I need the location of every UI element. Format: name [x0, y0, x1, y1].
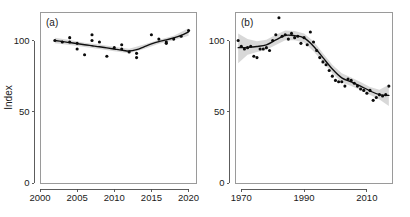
data-point [243, 48, 246, 51]
data-point [172, 38, 175, 41]
data-point [68, 40, 71, 43]
x-tick-label: 2015 [141, 192, 162, 203]
data-point [287, 38, 290, 41]
data-point [277, 16, 280, 19]
data-point [90, 39, 93, 42]
data-point [321, 60, 324, 63]
data-point [293, 36, 296, 39]
data-point [246, 46, 249, 49]
data-point [365, 92, 368, 95]
data-point [384, 93, 387, 96]
y-tick-label: 50 [214, 106, 225, 117]
data-point [318, 56, 321, 59]
data-point [120, 48, 123, 51]
x-tick-label: 2000 [29, 192, 50, 203]
data-point [359, 87, 362, 90]
data-point [90, 33, 93, 36]
data-point [259, 48, 262, 51]
data-point [76, 42, 79, 45]
panel-label: (b) [241, 17, 253, 28]
data-point [83, 53, 86, 56]
x-tick-label: 2010 [104, 192, 125, 203]
data-point [290, 32, 293, 35]
data-point [180, 35, 183, 38]
data-point [284, 33, 287, 36]
data-point [356, 85, 359, 88]
data-point [68, 36, 71, 39]
data-point [312, 40, 315, 43]
y-tick-label: 50 [19, 106, 30, 117]
data-point [353, 82, 356, 85]
data-point [157, 38, 160, 41]
data-point [325, 63, 328, 66]
data-point [135, 52, 138, 55]
data-point [299, 42, 302, 45]
data-point [350, 79, 353, 82]
data-point [303, 36, 306, 39]
data-point [76, 48, 79, 51]
data-point [346, 77, 349, 80]
data-point [165, 42, 168, 45]
data-point [120, 43, 123, 46]
data-point [252, 55, 255, 58]
data-point [296, 35, 299, 38]
x-tick-label: 2020 [178, 192, 199, 203]
data-point [128, 50, 131, 53]
data-point [315, 49, 318, 52]
x-tick-label: 2005 [67, 192, 88, 203]
data-point [135, 56, 138, 59]
data-point [375, 96, 378, 99]
x-tick-label: 2010 [356, 192, 377, 203]
data-point [381, 95, 384, 98]
data-point [271, 39, 274, 42]
data-point [113, 46, 116, 49]
y-tick-label: 0 [219, 177, 224, 188]
data-point [53, 39, 56, 42]
figure-container: 05010020002005201020152020(a)Index 05010… [0, 0, 410, 217]
x-tick-label: 1990 [294, 192, 315, 203]
y-tick-label: 100 [14, 35, 30, 46]
data-point [268, 49, 271, 52]
data-point [334, 79, 337, 82]
data-point [105, 55, 108, 58]
figure-background [0, 0, 410, 217]
data-point [309, 30, 312, 33]
data-point [306, 43, 309, 46]
panel-label: (a) [46, 17, 58, 28]
data-point [337, 80, 340, 83]
data-point [274, 33, 277, 36]
data-point [255, 56, 258, 59]
data-point [150, 33, 153, 36]
data-point [378, 93, 381, 96]
data-point [98, 40, 101, 43]
data-point [61, 40, 64, 43]
x-tick-label: 1970 [231, 192, 252, 203]
two-panel-index-chart: 05010020002005201020152020(a)Index 05010… [0, 0, 410, 217]
data-point [368, 89, 371, 92]
data-point [237, 39, 240, 42]
data-point [187, 29, 190, 32]
data-point [331, 75, 334, 78]
data-point [372, 99, 375, 102]
data-point [343, 85, 346, 88]
data-point [340, 80, 343, 83]
y-tick-label: 0 [24, 177, 29, 188]
data-point [362, 89, 365, 92]
data-point [249, 45, 252, 48]
y-tick-label: 100 [209, 35, 225, 46]
data-point [265, 46, 268, 49]
y-axis-title: Index [3, 85, 14, 109]
data-point [240, 45, 243, 48]
data-point [328, 69, 331, 72]
data-point [262, 48, 265, 51]
data-point [281, 35, 284, 38]
data-point [387, 85, 390, 88]
